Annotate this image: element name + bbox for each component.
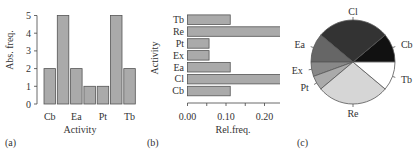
y-tick-label: 1: [26, 81, 31, 92]
bar-Re: [111, 16, 123, 105]
x-tick-label: Ea: [71, 111, 82, 122]
y-tick-label: 3: [26, 45, 31, 56]
pie-label: Ex: [292, 65, 303, 76]
y-tick-label: Re: [173, 26, 185, 37]
y-tick-label: Cl: [175, 73, 185, 84]
pie-label-tick: [392, 47, 395, 48]
y-tick-label: 5: [26, 10, 31, 21]
y-axis-label: Activity: [149, 42, 160, 75]
pie-slices: [311, 20, 395, 104]
bar-Pt: [188, 39, 210, 49]
y-tick-label: Tb: [173, 14, 184, 25]
x-tick-label: 0.10: [217, 111, 235, 122]
x-axis-label: Activity: [64, 124, 97, 135]
pie-label: Re: [347, 108, 359, 119]
y-axis-label: Abs. freq.: [4, 30, 15, 70]
x-tick-label: Cb: [44, 111, 56, 122]
panel-label: (b): [147, 137, 159, 149]
bar-Pt: [97, 86, 109, 104]
bar-Cl: [188, 74, 281, 84]
x-axis-label: Rel.freq.: [216, 124, 251, 135]
pie-label: Ea: [295, 39, 306, 50]
y-tick-label: 0: [26, 99, 31, 110]
pie-label-tick: [311, 47, 314, 48]
bar-Ea: [188, 63, 231, 73]
y-tick-label: Ex: [173, 50, 184, 61]
pie-chart: CbClEaExPtReTb (c): [270, 0, 419, 161]
bar-Tb: [188, 15, 231, 25]
bar-Ex: [188, 51, 210, 61]
bar-Re: [188, 27, 281, 37]
pie-label-tick: [314, 83, 317, 85]
bar-Ea: [71, 69, 83, 104]
panel-label: (a): [5, 137, 16, 149]
panel-c-pie-chart: CbClEaExPtReTb (c): [270, 0, 419, 161]
bar-Cl: [57, 16, 69, 105]
pie-label: Pt: [300, 82, 309, 93]
bar-Cb: [188, 86, 231, 96]
bar-Cb: [44, 69, 56, 104]
bar-Ex: [84, 86, 96, 104]
pie-label: Cb: [401, 39, 413, 50]
bar-Tb: [124, 69, 136, 104]
y-tick-label: Cb: [172, 85, 184, 96]
y-tick-label: Ea: [173, 62, 184, 73]
y-tick-label: 2: [26, 63, 31, 74]
y-axis: 012345: [26, 10, 37, 110]
panel-b-rel-freq-bar-chart: CbClEaExPtReTb 0.000.100.20 Activity Rel…: [140, 0, 280, 161]
panel-label: (c): [297, 137, 308, 149]
y-axis: CbClEaExPtReTb: [172, 14, 184, 96]
x-axis: CbEaPtTb: [44, 111, 135, 122]
bars: [44, 16, 135, 105]
x-tick-label: Tb: [124, 111, 135, 122]
x-axis: 0.000.100.20: [179, 103, 280, 122]
y-tick-label: 4: [26, 28, 31, 39]
pie-label-tick: [309, 69, 312, 70]
y-tick-label: Pt: [176, 38, 185, 49]
x-tick-label: Pt: [99, 111, 108, 122]
pie-label: Tb: [401, 74, 412, 85]
pie-label: Cl: [348, 6, 358, 17]
x-tick-label: 0.00: [179, 111, 197, 122]
pie-label-tick: [392, 76, 395, 77]
abs-freq-bar-chart: 012345 CbEaPtTb Abs. freq. Activity (a): [0, 0, 140, 161]
bars: [188, 15, 281, 96]
panel-a-abs-freq-bar-chart: 012345 CbEaPtTb Abs. freq. Activity (a): [0, 0, 140, 161]
rel-freq-bar-chart: CbClEaExPtReTb 0.000.100.20 Activity Rel…: [140, 0, 280, 161]
